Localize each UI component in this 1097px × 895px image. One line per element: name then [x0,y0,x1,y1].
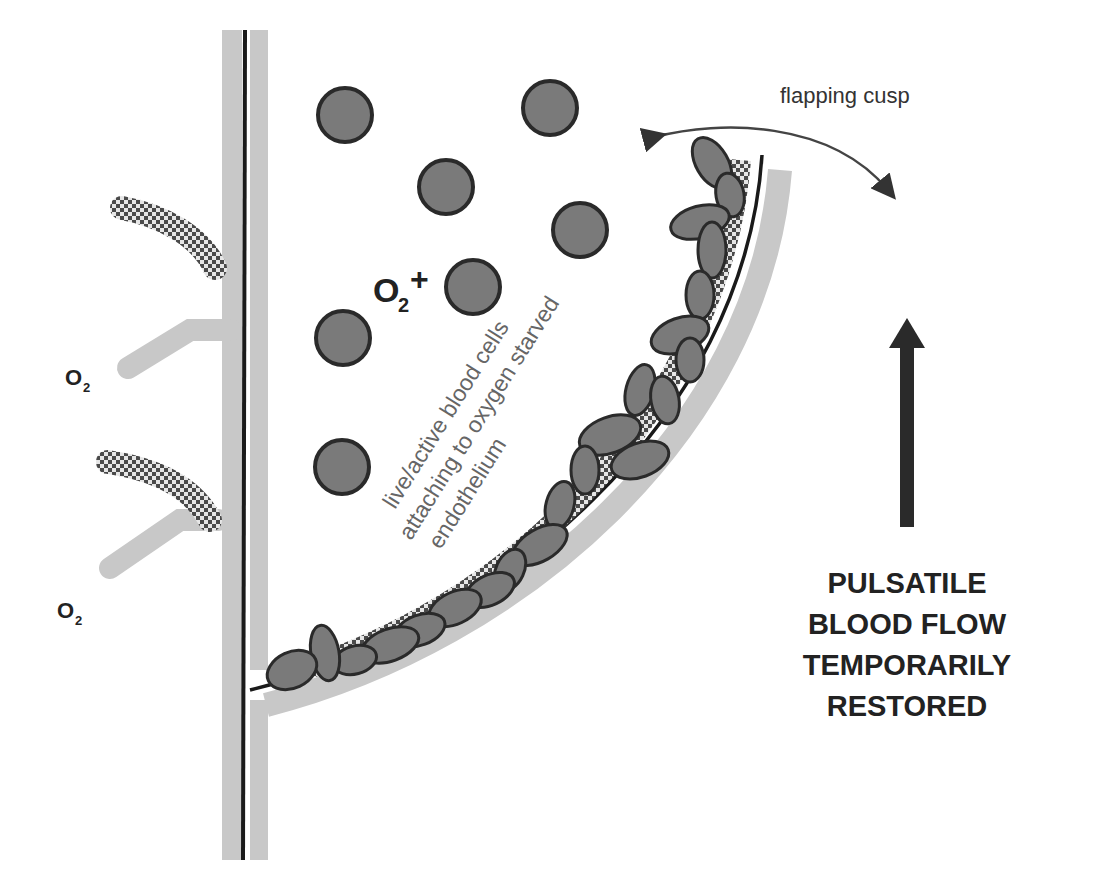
blood-flow-label: PULSATILE BLOOD FLOW TEMPORARILY RESTORE… [803,567,1011,722]
svg-text:BLOOD FLOW: BLOOD FLOW [808,608,1007,640]
svg-text:attaching to oxygen starved: attaching to oxygen starved [393,291,564,543]
flapping-cusp-label: flapping cusp [780,83,910,108]
svg-text:PULSATILE: PULSATILE [828,567,987,599]
attached-blood-cells [261,131,748,698]
branch-vessels [108,208,230,568]
svg-text:O: O [57,598,74,623]
blood-flow-arrow [889,318,925,527]
svg-text:O: O [373,271,399,309]
svg-text:TEMPORARILY: TEMPORARILY [803,649,1011,681]
o2-label-lower: O 2 [57,598,82,628]
svg-text:2: 2 [75,613,82,628]
svg-text:RESTORED: RESTORED [827,690,988,722]
svg-text:O: O [65,365,82,390]
svg-text:+: + [410,261,429,297]
valve-pocket-diagram: flapping cusp O 2 + O 2 O 2 live/active … [0,0,1097,895]
svg-text:2: 2 [83,380,90,395]
oxygen-plus-label: O 2 + [373,261,429,316]
vessel-wall [222,30,268,860]
svg-text:2: 2 [398,294,409,316]
o2-label-upper: O 2 [65,365,90,395]
